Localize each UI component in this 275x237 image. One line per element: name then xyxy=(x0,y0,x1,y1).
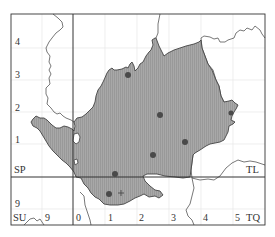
x-tick-1: 1 xyxy=(108,213,113,223)
y-tick-1: 1 xyxy=(15,135,20,145)
record-dot xyxy=(182,139,188,145)
county-fill xyxy=(31,38,238,205)
lake-cutout xyxy=(73,133,80,144)
x-tick-5: 5 xyxy=(235,213,240,223)
record-dot xyxy=(112,171,118,177)
record-dot xyxy=(157,112,163,118)
grid-square-label-sp: SP xyxy=(14,165,26,176)
y-tick-9: 9 xyxy=(15,199,20,209)
record-dot xyxy=(106,191,112,197)
x-tick-4: 4 xyxy=(203,213,208,223)
record-dot xyxy=(150,152,156,158)
x-tick-0: 0 xyxy=(76,213,81,223)
record-dot xyxy=(229,111,234,116)
distribution-map xyxy=(0,0,275,237)
grid-square-label-su: SU xyxy=(13,213,26,224)
y-tick-3: 3 xyxy=(15,70,20,80)
y-tick-2: 2 xyxy=(15,103,20,113)
y-tick-4: 4 xyxy=(15,37,20,47)
grid-square-label-tq: TQ xyxy=(246,213,260,224)
grid-square-label-tl: TL xyxy=(246,165,259,176)
x-tick-9: 9 xyxy=(45,213,50,223)
x-tick-3: 3 xyxy=(171,213,176,223)
record-dot xyxy=(125,72,131,78)
x-tick-2: 2 xyxy=(139,213,144,223)
